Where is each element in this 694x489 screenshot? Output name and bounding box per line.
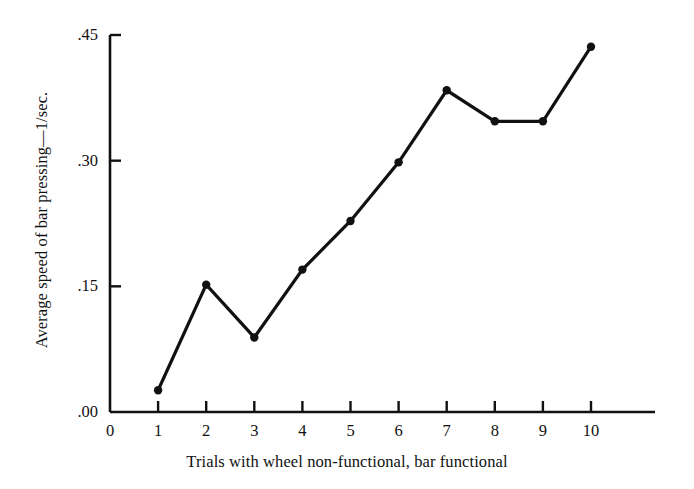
data-point (298, 265, 306, 273)
data-point (346, 217, 354, 225)
data-point-markers (154, 43, 595, 395)
data-point (443, 86, 451, 94)
y-tick-marks (110, 35, 121, 286)
axes (110, 35, 655, 412)
data-point (539, 117, 547, 125)
x-tick-marks (158, 401, 591, 412)
x-tick-label: 3 (234, 421, 274, 441)
data-line (158, 47, 591, 390)
x-tick-label: 0 (90, 421, 130, 441)
data-point (154, 386, 162, 394)
data-point (394, 158, 402, 166)
data-point (587, 43, 595, 51)
y-tick-label: .00 (52, 402, 98, 422)
x-tick-label: 1 (138, 421, 178, 441)
y-tick-label: .15 (52, 276, 98, 296)
data-point (250, 333, 258, 341)
x-tick-label: 9 (523, 421, 563, 441)
x-tick-label: 10 (571, 421, 611, 441)
y-tick-label: .45 (52, 25, 98, 45)
x-tick-label: 6 (379, 421, 419, 441)
x-tick-label: 2 (186, 421, 226, 441)
figure: Average speed of bar pressing—1/sec. Tri… (0, 0, 694, 489)
x-tick-label: 8 (475, 421, 515, 441)
x-tick-label: 5 (331, 421, 371, 441)
y-tick-label: .30 (52, 151, 98, 171)
data-point (202, 280, 210, 288)
chart-plot-area (0, 0, 694, 489)
x-tick-label: 7 (427, 421, 467, 441)
x-tick-label: 4 (282, 421, 322, 441)
data-point (491, 117, 499, 125)
